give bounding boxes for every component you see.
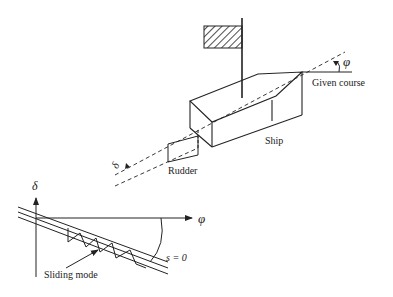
delta-axis-label: δ [32, 180, 38, 192]
flag-icon [204, 18, 242, 98]
phi-label-top: φ [343, 55, 350, 68]
rudder-shape [168, 130, 198, 162]
ship-sliding-mode-diagram: φ Given course Ship δ Rudder δ φ s = 0 S… [0, 0, 393, 297]
sliding-mode-label: Sliding mode [44, 270, 98, 280]
diagram-drawing [0, 0, 393, 297]
switching-surface-label: s = 0 [166, 253, 187, 263]
phi-axis-label: φ [198, 212, 205, 225]
given-course-label: Given course [312, 78, 365, 88]
ship-label: Ship [265, 136, 283, 146]
ship-heading-line [115, 52, 345, 175]
ship-hull [190, 72, 302, 147]
rudder-label: Rudder [168, 166, 197, 176]
phase-plane [18, 198, 192, 277]
